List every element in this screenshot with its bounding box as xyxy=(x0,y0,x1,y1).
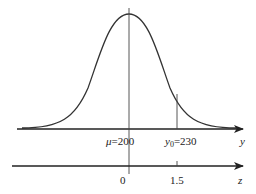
y0-label: y0=230 xyxy=(164,135,197,149)
z-tick-label-1.5: 1.5 xyxy=(170,174,184,186)
z-axis-label: z xyxy=(237,174,243,186)
z-tick-label-0: 0 xyxy=(120,174,126,186)
mu-label: μ=200 xyxy=(105,135,135,147)
y-axis-label: y xyxy=(239,135,245,147)
normal-distribution-diagram: μ=200 y0=230 y 0 1.5 z xyxy=(0,0,256,194)
